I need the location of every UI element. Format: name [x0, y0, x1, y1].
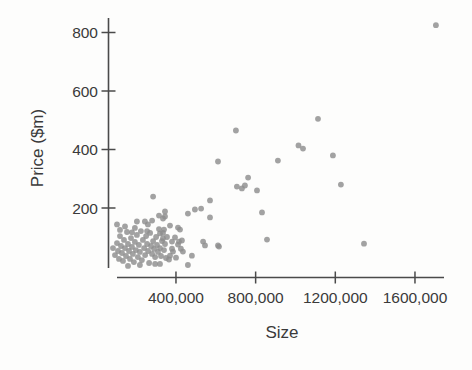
data-point	[185, 211, 191, 217]
data-point	[234, 184, 240, 190]
y-tick-label: 800	[72, 24, 98, 41]
data-point	[117, 227, 123, 233]
data-point	[207, 198, 213, 204]
data-point	[136, 242, 142, 248]
data-point	[153, 234, 159, 240]
data-point	[200, 239, 206, 245]
data-point	[177, 227, 183, 233]
data-point	[175, 242, 181, 248]
data-point	[131, 259, 137, 265]
data-point	[157, 261, 163, 267]
y-axis-title: Price ($m)	[28, 109, 48, 187]
data-point	[110, 245, 116, 251]
data-point	[138, 228, 144, 234]
data-point	[233, 128, 239, 134]
data-point	[172, 235, 178, 241]
data-point	[361, 241, 367, 247]
data-point	[158, 253, 164, 259]
data-point	[275, 158, 281, 164]
data-point	[134, 219, 140, 225]
data-point	[120, 258, 126, 264]
data-point	[330, 153, 336, 159]
data-point	[144, 228, 150, 234]
data-point	[160, 216, 166, 222]
data-point	[137, 262, 143, 268]
data-point	[114, 222, 120, 228]
data-point	[124, 229, 130, 235]
scatter-canvas: 400,000800,0001200,0001600,0002004006008…	[0, 0, 472, 370]
data-point	[245, 175, 251, 181]
data-point	[215, 159, 221, 165]
data-point	[254, 188, 260, 194]
x-tick-label: 1600,000	[383, 289, 448, 306]
data-point	[146, 260, 152, 266]
data-point	[150, 194, 156, 200]
data-point	[198, 206, 204, 212]
data-point	[185, 262, 191, 268]
data-point	[169, 246, 175, 252]
y-tick-label: 600	[72, 83, 98, 100]
data-point	[167, 223, 173, 229]
data-point	[125, 263, 131, 269]
data-point	[189, 253, 195, 259]
data-point	[259, 210, 265, 216]
data-point	[433, 22, 439, 28]
data-point	[152, 254, 158, 260]
data-point	[315, 116, 321, 122]
x-tick-label: 800,000	[228, 289, 284, 306]
x-tick-label: 1200,000	[303, 289, 368, 306]
data-point	[192, 207, 198, 213]
y-tick-label: 200	[72, 200, 98, 217]
data-point	[180, 249, 186, 255]
y-tick-label: 400	[72, 141, 98, 158]
data-point	[164, 234, 170, 240]
data-point	[145, 222, 151, 228]
scatter-figure: 400,000800,0001200,0001600,0002004006008…	[0, 0, 472, 370]
data-point	[207, 215, 213, 221]
x-axis-title: Size	[265, 323, 298, 343]
data-point	[163, 255, 169, 261]
data-point	[162, 241, 168, 247]
data-point	[173, 255, 179, 261]
data-point	[300, 146, 306, 152]
x-tick-label: 400,000	[148, 289, 204, 306]
data-point	[264, 237, 270, 243]
data-point	[338, 182, 344, 188]
data-point	[162, 209, 168, 215]
data-point	[132, 225, 138, 231]
data-point	[122, 224, 128, 230]
data-point	[161, 247, 167, 253]
data-point	[242, 183, 248, 189]
data-point	[215, 243, 221, 249]
